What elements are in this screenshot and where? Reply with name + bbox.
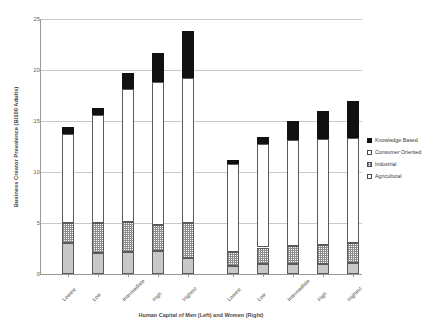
bar-segment-agricultural[interactable] [347,263,359,274]
legend-item[interactable]: Knowledge Based [367,137,445,143]
bar-segment-industrial[interactable] [227,252,239,266]
bar-segment-knowledge-based[interactable] [182,31,194,78]
legend-swatch-icon [367,138,372,143]
x-axis-category-label: Low [91,291,102,302]
legend-item[interactable]: Agricultural [367,173,445,179]
stacked-bar[interactable] [347,101,359,274]
bar-segment-knowledge-based[interactable] [287,121,299,140]
x-axis-tick [188,274,189,277]
x-axis-category-label: High [151,290,163,302]
bar-segment-consumer-oriented[interactable] [62,134,74,223]
legend-item[interactable]: Industrial [367,161,445,167]
x-axis-title: Human Capital of Men (Left) and Women (R… [139,312,264,318]
bar-segment-knowledge-based[interactable] [152,53,164,83]
bar-segment-knowledge-based[interactable] [62,127,74,134]
x-axis-category-label: Intermediate [286,278,311,303]
y-axis-tick-label: 0 [12,271,40,277]
legend-label: Consumer Oriented [375,149,421,155]
stacked-bar[interactable] [257,137,269,274]
y-axis-tick-label: 15 [12,118,40,124]
x-axis-category-label: High [316,290,328,302]
x-axis-category-label: Lowest [61,286,77,302]
bar-segment-consumer-oriented[interactable] [287,140,299,246]
legend-label: Industrial [375,161,397,167]
bar-segment-agricultural[interactable] [317,264,329,274]
bar-segment-industrial[interactable] [287,246,299,263]
y-axis-line [40,19,41,275]
x-axis-tick [323,274,324,277]
bar-segment-agricultural[interactable] [62,243,74,274]
bar-segment-industrial[interactable] [152,225,164,251]
stacked-bar[interactable] [122,73,134,274]
gridline-15 [40,121,362,122]
bar-segment-consumer-oriented[interactable] [257,144,269,247]
gridline-10 [40,172,362,173]
gridline-5 [40,223,362,224]
x-axis-line [40,274,362,275]
bar-segment-consumer-oriented[interactable] [182,78,194,223]
y-axis-title-container: Business Creator Prevalence (B/100 Adult… [26,19,38,274]
x-axis-tick [98,274,99,277]
bar-segment-industrial[interactable] [62,223,74,243]
chart-legend: Knowledge BasedConsumer OrientedIndustri… [367,137,445,185]
stacked-bar[interactable] [92,108,104,274]
bar-segment-agricultural[interactable] [92,253,104,274]
x-axis-category-label: Highest [346,286,363,303]
bar-segment-agricultural[interactable] [227,266,239,274]
x-axis-category-label: Lowest [226,286,242,302]
legend-label: Knowledge Based [375,137,418,143]
bar-segment-agricultural[interactable] [152,251,164,274]
bar-segment-knowledge-based[interactable] [92,108,104,115]
y-axis-tick-label: 25 [12,16,40,22]
bar-segment-knowledge-based[interactable] [347,101,359,139]
stacked-bar[interactable] [287,121,299,274]
legend-swatch-icon [367,150,372,155]
bar-segment-knowledge-based[interactable] [317,111,329,140]
x-axis-tick [293,274,294,277]
x-axis-tick [353,274,354,277]
x-axis-title-container: Human Capital of Men (Left) and Women (R… [40,303,362,321]
x-axis-tick [158,274,159,277]
stacked-bar[interactable] [182,31,194,274]
bar-segment-industrial[interactable] [92,223,104,253]
stacked-bar[interactable] [227,160,239,274]
stacked-bar[interactable] [152,53,164,274]
legend-item[interactable]: Consumer Oriented [367,149,445,155]
y-axis-title: Business Creator Prevalence (B/100 Adult… [13,86,19,207]
bar-segment-agricultural[interactable] [122,252,134,274]
x-axis-category-label: Highest [181,286,198,303]
y-axis-tick-label: 5 [12,220,40,226]
x-axis-tick [68,274,69,277]
gridline-20 [40,70,362,71]
x-axis-category-label: Low [256,291,267,302]
bar-segment-agricultural[interactable] [287,264,299,274]
legend-swatch-icon [367,174,372,179]
x-axis-tick [263,274,264,277]
plot-area: LowestLowIntermediateHighHighestLowestLo… [40,19,362,274]
gridline-25 [40,19,362,20]
bar-segment-industrial[interactable] [122,222,134,252]
bar-segment-industrial[interactable] [347,243,359,262]
legend-swatch-icon [367,162,372,167]
bar-segment-consumer-oriented[interactable] [317,139,329,245]
x-axis-tick [233,274,234,277]
bar-segment-industrial[interactable] [182,223,194,258]
bar-segment-agricultural[interactable] [182,258,194,274]
y-axis-tick-label: 10 [12,169,40,175]
bar-segment-knowledge-based[interactable] [122,73,134,89]
bar-segment-consumer-oriented[interactable] [152,82,164,225]
bar-segment-knowledge-based[interactable] [257,137,269,144]
stacked-bar[interactable] [62,127,74,274]
bar-segment-consumer-oriented[interactable] [92,115,104,223]
x-axis-category-label: Intermediate [121,278,146,303]
bar-segment-industrial[interactable] [257,248,269,264]
stacked-bar[interactable] [317,111,329,274]
legend-label: Agricultural [375,173,402,179]
bar-segment-consumer-oriented[interactable] [347,138,359,243]
bar-segment-consumer-oriented[interactable] [122,89,134,222]
bar-segment-agricultural[interactable] [257,264,269,274]
bar-segment-consumer-oriented[interactable] [227,164,239,252]
x-axis-tick [128,274,129,277]
bar-segment-knowledge-based[interactable] [227,160,239,164]
bar-segment-industrial[interactable] [317,245,329,263]
